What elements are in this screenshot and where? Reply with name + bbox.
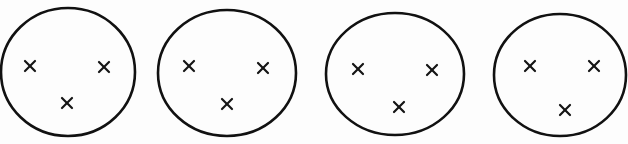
circle-group-1 [1,8,135,136]
x-mark-icon [184,61,194,71]
x-mark-icon [222,99,232,109]
circle-outline [494,14,626,136]
x-mark-icon [589,61,599,71]
circles-diagram [0,0,628,144]
x-mark-icon [560,105,570,115]
x-mark-icon [353,64,363,74]
x-mark-icon [427,65,437,75]
circle-outline [1,8,135,136]
circle-outline [158,10,296,136]
x-mark-icon [258,63,268,73]
circle-outline [326,13,464,135]
x-mark-icon [99,62,109,72]
circle-group-2 [158,10,296,136]
x-mark-icon [62,98,72,108]
circle-group-3 [326,13,464,135]
x-mark-icon [25,61,35,71]
x-mark-icon [525,61,535,71]
circle-group-4 [494,14,626,136]
x-mark-icon [394,102,404,112]
diagram-canvas [0,0,628,144]
